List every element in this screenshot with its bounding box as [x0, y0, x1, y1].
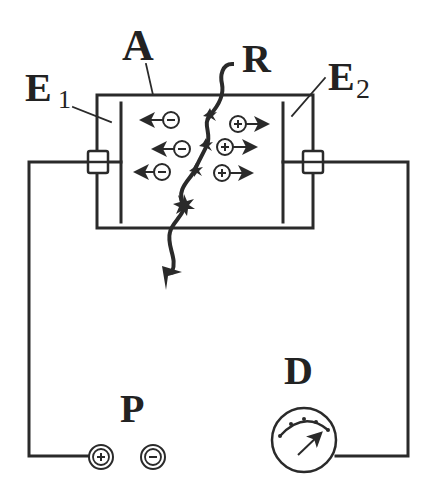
negative-ion-2 — [155, 141, 190, 157]
negative-ion-1 — [143, 112, 179, 128]
positive-ion-2 — [217, 139, 254, 155]
label-d: D — [284, 348, 313, 393]
svg-text:2: 2 — [356, 73, 370, 104]
label-r: R — [242, 36, 272, 81]
svg-text:E: E — [25, 65, 52, 110]
radiation-arrowhead — [162, 266, 182, 290]
terminal-negative — [141, 445, 165, 469]
label-e2: E 2 — [328, 54, 370, 104]
connector-left — [88, 151, 108, 173]
negative-ion-3 — [137, 164, 170, 180]
detector-meter-icon — [272, 408, 336, 472]
terminal-positive — [89, 445, 113, 469]
label-a: A — [122, 21, 154, 70]
connector-right — [303, 151, 323, 173]
svg-text:1: 1 — [58, 85, 71, 114]
circuit-wire-left — [29, 162, 121, 456]
leader-e1 — [73, 107, 111, 122]
ionization-chamber-diagram: A R E 1 E 2 P D — [0, 0, 428, 492]
positive-ion-1 — [230, 116, 266, 132]
label-e1: E 1 — [25, 65, 71, 114]
positive-ion-3 — [214, 165, 250, 181]
leader-e2 — [292, 78, 325, 116]
svg-text:E: E — [328, 54, 355, 99]
label-p: P — [120, 386, 144, 431]
